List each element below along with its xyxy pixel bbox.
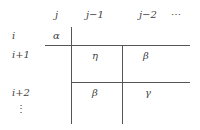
- cell-gamma: γ: [145, 88, 151, 98]
- cell-beta-bottom: β: [92, 88, 98, 98]
- row-header-i: i: [12, 31, 15, 41]
- row-header-i-plus-2: i+2: [12, 88, 30, 98]
- cell-eta: η: [92, 51, 98, 61]
- cell-beta-top: β: [143, 51, 149, 61]
- column-header-j-minus-2: j−2: [139, 10, 157, 20]
- row-header-vertical-ellipsis: ⋮: [16, 104, 26, 114]
- grid-line-vertical-left: [71, 27, 72, 124]
- grid-line-vertical-right: [122, 45, 123, 124]
- column-header-j: j: [55, 10, 58, 20]
- column-header-j-minus-1: j−1: [86, 10, 104, 20]
- grid-line-horizontal-middle: [71, 82, 190, 83]
- column-header-ellipsis: ⋯: [171, 10, 181, 20]
- grid-line-horizontal-top: [45, 45, 190, 46]
- cell-alpha: α: [53, 31, 60, 41]
- row-header-i-plus-1: i+1: [12, 50, 30, 60]
